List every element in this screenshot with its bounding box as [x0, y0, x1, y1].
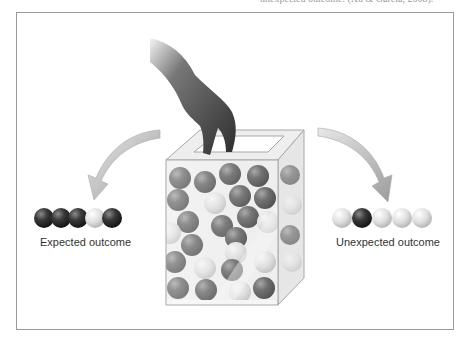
unexpected-outcome-label: Unexpected outcome: [336, 236, 440, 248]
unexpected-outcome-balls: [332, 208, 432, 228]
expected-outcome-balls: [34, 208, 122, 228]
expected-outcome-label: Expected outcome: [40, 236, 131, 248]
ball-box-icon: [159, 130, 304, 305]
arrow-to-unexpected-icon: [318, 128, 392, 202]
figure-illustration: [0, 0, 463, 340]
arrow-to-expected-icon: [88, 130, 160, 200]
